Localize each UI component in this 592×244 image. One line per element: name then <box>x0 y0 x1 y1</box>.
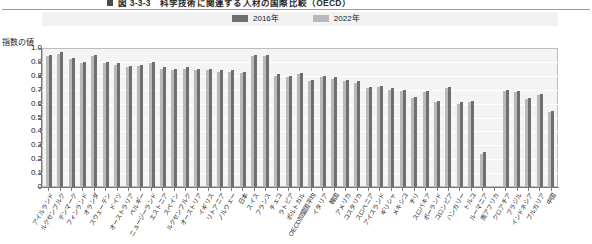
bar-group[interactable] <box>500 48 511 187</box>
bar-2016[interactable] <box>528 98 531 187</box>
bar-group[interactable] <box>43 48 54 187</box>
bar-group[interactable] <box>351 48 362 187</box>
legend-swatch-2022 <box>313 15 329 22</box>
bar-group[interactable] <box>157 48 168 187</box>
bar-2016[interactable] <box>311 80 314 187</box>
bar-group[interactable] <box>77 48 88 187</box>
bar-2016[interactable] <box>471 101 474 187</box>
bar-2016[interactable] <box>60 52 63 187</box>
bar-group[interactable] <box>100 48 111 187</box>
bar-2016[interactable] <box>72 58 75 187</box>
bar-group[interactable] <box>306 48 317 187</box>
bar-group[interactable] <box>374 48 385 187</box>
bar-group[interactable] <box>271 48 282 187</box>
bar-2016[interactable] <box>186 67 189 187</box>
bar-2016[interactable] <box>140 65 143 187</box>
bar-2016[interactable] <box>540 94 543 187</box>
bar-group[interactable] <box>317 48 328 187</box>
x-label-cell: 日本 <box>237 192 248 244</box>
bar-2016[interactable] <box>231 70 234 187</box>
bar-group[interactable] <box>340 48 351 187</box>
bar-2016[interactable] <box>334 77 337 187</box>
bar-2016[interactable] <box>426 91 429 187</box>
bar-group[interactable] <box>397 48 408 187</box>
bar-group[interactable] <box>431 48 442 187</box>
bar-group[interactable] <box>191 48 202 187</box>
bar-group[interactable] <box>237 48 248 187</box>
y-tick-label: 0.9 <box>0 58 42 66</box>
bar-2016[interactable] <box>152 62 155 187</box>
bar-group[interactable] <box>409 48 420 187</box>
bar-2016[interactable] <box>460 102 463 187</box>
x-label-cell: ギリシャ <box>386 192 397 244</box>
bar-2016[interactable] <box>483 152 486 187</box>
bar-2016[interactable] <box>83 62 86 187</box>
bar-group[interactable] <box>260 48 271 187</box>
y-tick-label: 0.6 <box>0 100 42 108</box>
bar-group[interactable] <box>249 48 260 187</box>
bar-group[interactable] <box>329 48 340 187</box>
bar-group[interactable] <box>112 48 123 187</box>
bar-group[interactable] <box>89 48 100 187</box>
bar-group[interactable] <box>546 48 557 187</box>
bar-2016[interactable] <box>277 74 280 187</box>
bar-2016[interactable] <box>346 80 349 187</box>
bar-2016[interactable] <box>437 101 440 187</box>
bar-2016[interactable] <box>448 87 451 187</box>
bar-2016[interactable] <box>94 55 97 187</box>
bar-2016[interactable] <box>209 69 212 187</box>
bar-2016[interactable] <box>49 55 52 187</box>
bar-group[interactable] <box>294 48 305 187</box>
y-tick-label: 0.3 <box>0 141 42 149</box>
bar-group[interactable] <box>363 48 374 187</box>
bar-2016[interactable] <box>380 86 383 187</box>
bar-group[interactable] <box>523 48 534 187</box>
bar-group[interactable] <box>226 48 237 187</box>
bar-2016[interactable] <box>117 63 120 187</box>
legend-item-2022: 2022年 <box>313 14 360 23</box>
bar-group[interactable] <box>66 48 77 187</box>
bar-2016[interactable] <box>414 97 417 187</box>
bar-2016[interactable] <box>174 69 177 187</box>
bar-2016[interactable] <box>517 91 520 187</box>
bar-group[interactable] <box>511 48 522 187</box>
bar-2016[interactable] <box>357 81 360 187</box>
bar-group[interactable] <box>134 48 145 187</box>
bar-2016[interactable] <box>163 67 166 187</box>
x-label-cell: イタリア <box>317 192 328 244</box>
bar-2016[interactable] <box>323 76 326 187</box>
bar-group[interactable] <box>283 48 294 187</box>
bar-2016[interactable] <box>129 66 132 187</box>
bar-2016[interactable] <box>369 87 372 187</box>
bar-group[interactable] <box>534 48 545 187</box>
bar-group[interactable] <box>146 48 157 187</box>
bar-2016[interactable] <box>403 90 406 187</box>
bar-group[interactable] <box>477 48 488 187</box>
y-tick-label: 0.7 <box>0 86 42 94</box>
bar-group[interactable] <box>466 48 477 187</box>
bar-group[interactable] <box>420 48 431 187</box>
bar-2016[interactable] <box>106 62 109 187</box>
bar-group[interactable] <box>169 48 180 187</box>
bar-2016[interactable] <box>197 69 200 187</box>
bar-group[interactable] <box>180 48 191 187</box>
x-label-cell: メキシコ <box>397 192 408 244</box>
bar-2016[interactable] <box>266 55 269 187</box>
bar-group[interactable] <box>123 48 134 187</box>
bar-group[interactable] <box>203 48 214 187</box>
bar-group[interactable] <box>214 48 225 187</box>
bar-group[interactable] <box>454 48 465 187</box>
bar-group[interactable] <box>488 48 499 187</box>
bar-2016[interactable] <box>391 88 394 187</box>
bar-2016[interactable] <box>254 55 257 187</box>
bar-group[interactable] <box>54 48 65 187</box>
bar-2016[interactable] <box>220 70 223 187</box>
bar-group[interactable] <box>386 48 397 187</box>
bar-group[interactable] <box>443 48 454 187</box>
bar-2016[interactable] <box>289 76 292 187</box>
bar-2016[interactable] <box>551 111 554 187</box>
bar-2016[interactable] <box>300 73 303 187</box>
x-label-cell: チェコ <box>271 192 282 244</box>
bar-2016[interactable] <box>506 90 509 187</box>
bar-2016[interactable] <box>243 72 246 187</box>
